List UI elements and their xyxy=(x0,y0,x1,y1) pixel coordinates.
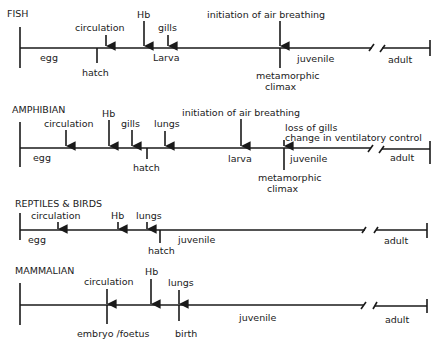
event-label: initiation of air breathing xyxy=(182,107,300,118)
timeline-reptiles-birds: REPTILES & BIRDS circulation Hb lungs eg… xyxy=(15,198,427,256)
stage-label: juvenile xyxy=(238,312,276,323)
stage-label: egg xyxy=(33,152,51,163)
timeline-title: AMPHIBIAN xyxy=(12,104,65,115)
stage-label: egg xyxy=(40,52,58,63)
event-label: Hb xyxy=(102,108,115,119)
event-label: Hb xyxy=(137,9,150,20)
event-label: circulation xyxy=(44,118,93,129)
event-label: gills xyxy=(158,22,177,33)
event-label: Hb xyxy=(145,266,158,277)
timeline-fish: FISH circulation Hb gills initiation of … xyxy=(7,8,430,92)
marker-label: metamorphic xyxy=(258,172,322,183)
event-label: lungs xyxy=(154,118,180,129)
stage-label: adult xyxy=(388,54,413,65)
event-label: lungs xyxy=(136,210,162,221)
marker-label: birth xyxy=(175,328,197,339)
timeline-title: FISH xyxy=(7,8,28,19)
event-label: circulation xyxy=(84,276,133,287)
event-label: circulation xyxy=(75,22,124,33)
timeline-amphibian: AMPHIBIAN circulation Hb gills lungs ini… xyxy=(12,104,430,194)
event-label: gills xyxy=(121,118,140,129)
timeline-title: MAMMALIAN xyxy=(15,265,74,276)
marker-label: hatch xyxy=(133,162,160,173)
stage-label: egg xyxy=(28,234,46,245)
marker-label: metamorphic xyxy=(256,70,320,81)
event-label: Hb xyxy=(111,210,124,221)
marker-label: hatch xyxy=(148,245,175,256)
stage-label: Larva xyxy=(153,52,179,63)
event-label-line2: change in ventilatory control xyxy=(285,132,422,143)
timeline-mammalian: MAMMALIAN circulation Hb lungs embryo /f… xyxy=(15,265,427,339)
stage-label: juvenile xyxy=(289,153,327,164)
event-label: circulation xyxy=(31,210,80,221)
stage-label: adult xyxy=(385,314,410,325)
developmental-timelines-diagram: FISH circulation Hb gills initiation of … xyxy=(0,0,442,354)
stage-label: larva xyxy=(228,153,252,164)
marker-label-line2: climax xyxy=(265,81,297,92)
marker-label: hatch xyxy=(82,67,109,78)
timeline-title: REPTILES & BIRDS xyxy=(15,198,102,209)
marker-label-line2: climax xyxy=(267,183,299,194)
stage-label: juvenile xyxy=(177,234,215,245)
stage-label: adult xyxy=(390,152,415,163)
stage-label: adult xyxy=(384,235,409,246)
event-label: lungs xyxy=(168,277,194,288)
marker-label: embryo /foetus xyxy=(77,328,149,339)
event-label: initiation of air breathing xyxy=(207,9,325,20)
stage-label: juvenile xyxy=(296,53,334,64)
